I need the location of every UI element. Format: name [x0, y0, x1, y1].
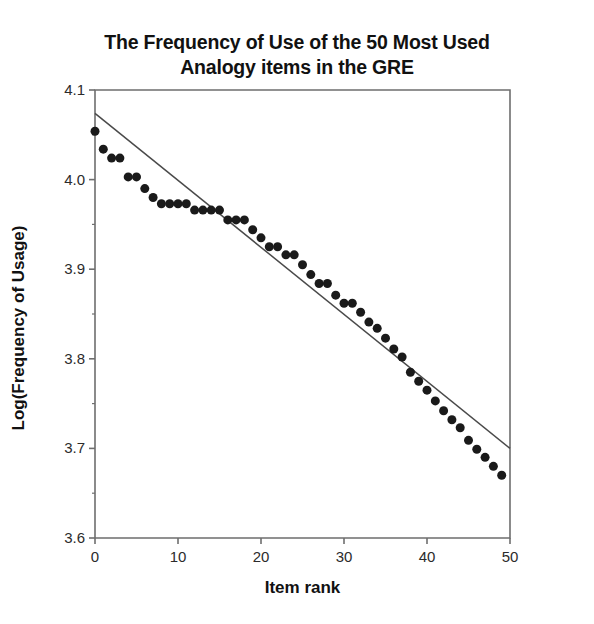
data-point: [497, 471, 506, 480]
data-point: [140, 184, 149, 193]
data-point: [447, 415, 456, 424]
data-point: [331, 291, 340, 300]
data-point: [489, 462, 498, 471]
trend-line: [95, 113, 510, 448]
data-point: [348, 299, 357, 308]
data-point: [414, 377, 423, 386]
data-point: [431, 396, 440, 405]
x-tick-label: 10: [170, 548, 187, 565]
x-axis-ticks: 01020304050: [91, 538, 519, 565]
data-point: [364, 318, 373, 327]
data-point: [190, 206, 199, 215]
data-point: [132, 172, 141, 181]
y-tick-label: 3.8: [64, 350, 85, 367]
data-point: [223, 215, 232, 224]
data-point: [456, 423, 465, 432]
data-point: [398, 353, 407, 362]
data-point: [248, 225, 257, 234]
data-point: [306, 270, 315, 279]
data-points: [91, 127, 507, 480]
data-point: [215, 206, 224, 215]
data-point: [423, 386, 432, 395]
data-point: [290, 250, 299, 259]
data-point: [165, 199, 174, 208]
data-point: [107, 154, 116, 163]
data-point: [373, 324, 382, 333]
data-point: [232, 215, 241, 224]
data-point: [406, 368, 415, 377]
data-point: [91, 127, 100, 136]
data-point: [124, 172, 133, 181]
plot-area: 3.63.73.83.94.04.1 01020304050: [0, 0, 594, 624]
data-point: [323, 279, 332, 288]
chart-figure: The Frequency of Use of the 50 Most Used…: [0, 0, 594, 624]
data-point: [381, 334, 390, 343]
data-point: [115, 154, 124, 163]
data-point: [99, 145, 108, 154]
data-point: [298, 260, 307, 269]
y-tick-label: 3.9: [64, 260, 85, 277]
data-point: [198, 206, 207, 215]
data-point: [149, 193, 158, 202]
data-point: [265, 242, 274, 251]
data-point: [472, 445, 481, 454]
data-point: [273, 242, 282, 251]
data-point: [481, 453, 490, 462]
data-point: [340, 299, 349, 308]
data-point: [315, 279, 324, 288]
data-point: [207, 206, 216, 215]
y-tick-label: 4.0: [64, 171, 85, 188]
data-point: [174, 199, 183, 208]
x-tick-label: 40: [419, 548, 436, 565]
y-tick-label: 4.1: [64, 81, 85, 98]
data-point: [240, 215, 249, 224]
data-point: [389, 344, 398, 353]
data-point: [182, 199, 191, 208]
x-tick-label: 20: [253, 548, 270, 565]
axis-frame: [95, 90, 510, 538]
y-axis-ticks: 3.63.73.83.94.04.1: [64, 81, 95, 546]
y-tick-label: 3.6: [64, 529, 85, 546]
x-tick-label: 50: [502, 548, 519, 565]
x-tick-label: 0: [91, 548, 99, 565]
y-tick-label: 3.7: [64, 439, 85, 456]
data-point: [464, 436, 473, 445]
data-point: [439, 406, 448, 415]
data-point: [157, 199, 166, 208]
data-point: [257, 233, 266, 242]
data-point: [281, 250, 290, 259]
x-tick-label: 30: [336, 548, 353, 565]
data-point: [356, 308, 365, 317]
